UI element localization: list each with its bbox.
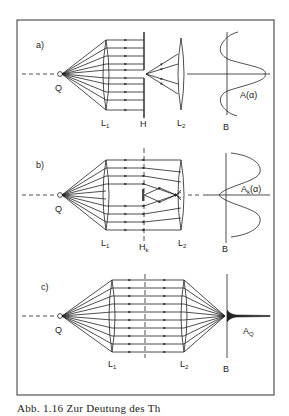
source-q-icon xyxy=(58,72,63,77)
panel-a-label: a) xyxy=(36,40,44,50)
amplitude-ak-label: Ak(α) xyxy=(241,184,261,195)
source-q-icon xyxy=(58,314,63,319)
lens-l2-label: L2 xyxy=(178,238,187,249)
amplitude-a-label: A(α) xyxy=(240,90,257,100)
panel-b-labels: b) Q L1 Hk L2 B Ak(α) xyxy=(36,160,261,254)
lens-l1-label: L1 xyxy=(101,238,110,249)
lens-l2-shape xyxy=(178,38,184,110)
converging-rays xyxy=(184,280,225,352)
amplitude-aq-label: AQ xyxy=(243,326,254,337)
screen-b-label: B xyxy=(222,244,228,254)
parallel-rays xyxy=(106,40,144,110)
diverging-rays xyxy=(62,160,106,230)
source-q-label: Q xyxy=(55,204,62,214)
amplitude-spike xyxy=(227,310,270,322)
lens-l1-shape xyxy=(109,280,115,352)
aperture-hk-label: Hk xyxy=(139,242,150,253)
panel-b-label: b) xyxy=(36,160,44,170)
lens-l2-label: L2 xyxy=(177,118,186,129)
lens-l1-shape xyxy=(103,160,109,230)
source-q-label: Q xyxy=(55,83,62,93)
panel-c-label: c) xyxy=(41,282,49,292)
lens-l2-shape xyxy=(181,280,187,352)
figure-caption: Abb. 1.16 Zur Deutung des Th xyxy=(17,402,161,414)
panel-a-labels: a) Q L1 H L2 B A(α) xyxy=(36,40,257,132)
aperture-h-label: H xyxy=(140,119,147,129)
lens-l1-label: L1 xyxy=(108,359,117,370)
panel-b xyxy=(22,148,270,243)
diffracted-rays xyxy=(146,54,178,94)
lens-l2-label: L2 xyxy=(180,359,189,370)
diverging-rays xyxy=(62,40,106,110)
screen-b-label: B xyxy=(223,122,229,132)
diverging-rays xyxy=(62,280,112,352)
lens-l1-shape xyxy=(103,40,109,110)
lens-l1-label: L1 xyxy=(101,118,110,129)
lens-l2-shape xyxy=(178,160,184,230)
screen-b-label: B xyxy=(223,364,229,374)
source-q-icon xyxy=(58,193,63,198)
panel-c xyxy=(22,274,270,358)
source-q-label: Q xyxy=(55,325,62,335)
panel-a xyxy=(22,32,270,118)
parallel-rays xyxy=(112,280,184,352)
